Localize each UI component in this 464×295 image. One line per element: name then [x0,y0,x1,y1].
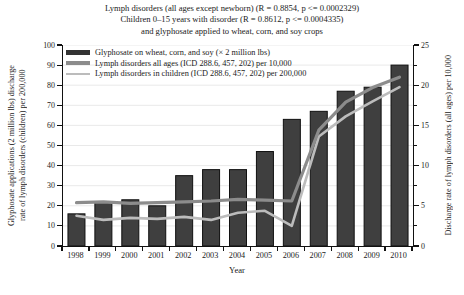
right-tick-label-15: 15 [421,121,441,130]
left-axis-title-line2: rate of lymph disorders (children) per 2… [17,65,28,226]
year-label-2000: 2000 [114,251,144,260]
legend-item-1: Lymph disorders all ages (ICD 288.6, 457… [66,58,306,69]
left-tick-100 [57,44,62,45]
left-tick-90 [57,65,62,66]
year-label-2007: 2007 [303,251,333,260]
year-label-2004: 2004 [222,251,252,260]
right-tick-5 [414,205,419,206]
year-label-2006: 2006 [276,251,306,260]
left-tick-label-0: 0 [30,242,55,251]
bar-2004 [230,170,247,246]
right-tick-label-5: 5 [421,201,441,210]
right-minor-tick [414,105,417,106]
bar-2001 [149,206,166,246]
left-tick-label-100: 100 [30,41,55,50]
right-tick-label-0: 0 [421,242,441,251]
year-label-2009: 2009 [357,251,387,260]
left-axis-title: Glyphosate applications (2 million lbs) … [4,45,30,246]
bar-2003 [203,170,220,246]
right-tick-20 [414,85,419,86]
left-tick-40 [57,165,62,166]
year-label-1998: 1998 [60,251,90,260]
year-label-2003: 2003 [195,251,225,260]
left-tick-label-90: 90 [30,61,55,70]
chart-title-line2: Children 0–15 years with disorder (R = 0… [0,14,464,25]
left-tick-80 [57,85,62,86]
year-label-2010: 2010 [384,251,414,260]
left-tick-label-80: 80 [30,81,55,90]
legend-label: Lymph disorders all ages (ICD 288.6, 457… [95,59,292,68]
left-tick-label-30: 30 [30,181,55,190]
legend-item-0: Glyphosate on wheat, corn, and soy (× 2 … [66,47,306,58]
left-tick-label-50: 50 [30,141,55,150]
right-axis-title: Discharge rate of lymph disorders (all a… [437,45,459,246]
plot-area: Glyphosate on wheat, corn, and soy (× 2 … [62,45,414,247]
right-tick-label-25: 25 [421,41,441,50]
bar-2000 [122,200,139,246]
left-tick-50 [57,145,62,146]
year-label-2005: 2005 [249,251,279,260]
legend-swatch-bar [66,50,90,56]
left-tick-20 [57,205,62,206]
left-tick-60 [57,125,62,126]
right-tick-25 [414,44,419,45]
right-axis-title-text: Discharge rate of lymph disorders (all a… [443,55,454,236]
year-label-2001: 2001 [141,251,171,260]
right-tick-label-20: 20 [421,81,441,90]
bar-1999 [95,202,112,246]
year-label-2002: 2002 [168,251,198,260]
bar-1998 [68,214,85,246]
right-minor-tick [414,185,417,186]
right-tick-15 [414,125,419,126]
left-tick-70 [57,105,62,106]
x-tick [411,247,412,251]
left-tick-label-10: 10 [30,221,55,230]
left-tick-label-70: 70 [30,101,55,110]
figure: Lymph disorders (all ages except newborn… [0,0,464,295]
legend-swatch-thick [66,61,90,65]
legend-label: Lymph disorders in children (ICD 288.6, … [95,69,306,78]
x-axis-title: Year [62,265,412,275]
left-axis-title-line1: Glyphosate applications (2 million lbs) … [6,65,17,226]
bar-2002 [176,176,193,246]
bar-2009 [364,87,381,246]
right-minor-tick [414,145,417,146]
right-tick-label-10: 10 [421,161,441,170]
year-label-1999: 1999 [87,251,117,260]
left-tick-10 [57,225,62,226]
legend: Glyphosate on wheat, corn, and soy (× 2 … [66,47,306,79]
year-label-2008: 2008 [330,251,360,260]
legend-swatch-thin [66,73,90,75]
left-tick-label-60: 60 [30,121,55,130]
right-tick-0 [414,245,419,246]
chart-title-line3: and glyphosate applied to wheat, corn, a… [0,26,464,37]
legend-label: Glyphosate on wheat, corn, and soy (× 2 … [95,48,270,57]
right-minor-tick [414,225,417,226]
right-tick-10 [414,165,419,166]
bar-2010 [391,65,408,246]
right-minor-tick [414,65,417,66]
left-tick-30 [57,185,62,186]
legend-item-2: Lymph disorders in children (ICD 288.6, … [66,69,306,80]
chart-title-line1: Lymph disorders (all ages except newborn… [0,3,464,14]
left-tick-label-40: 40 [30,161,55,170]
left-tick-label-20: 20 [30,201,55,210]
chart-title: Lymph disorders (all ages except newborn… [0,3,464,37]
